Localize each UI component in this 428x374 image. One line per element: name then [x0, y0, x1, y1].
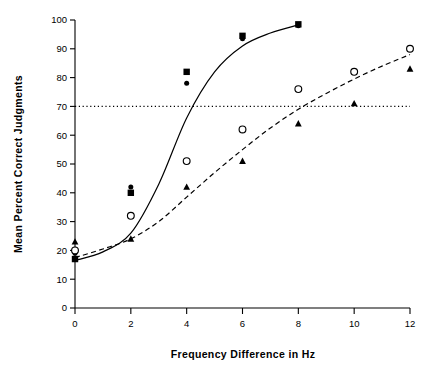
data-point-filled-triangle	[407, 65, 414, 71]
y-tick-label: 50	[56, 158, 67, 169]
data-markers-group	[72, 21, 414, 262]
data-point-filled-square	[295, 21, 301, 27]
data-point-filled-triangle	[72, 238, 79, 244]
y-tick-label: 100	[51, 14, 67, 25]
x-tick-label: 2	[128, 318, 133, 329]
normal-fit-curve	[75, 25, 298, 261]
data-point-filled-triangle	[239, 158, 246, 164]
y-tick-label: 80	[56, 72, 67, 83]
data-point-filled-triangle	[295, 120, 302, 126]
y-tick-label: 20	[56, 245, 67, 256]
chart-canvas: 0102030405060708090100 024681012 Mean Pe…	[0, 0, 428, 374]
y-tick-label: 40	[56, 187, 67, 198]
data-point-filled-square	[183, 69, 189, 75]
y-axis-title: Mean Percent Correct Judgments	[12, 75, 24, 253]
y-tick-label: 0	[62, 302, 67, 313]
data-point-open-circle	[72, 247, 79, 254]
data-point-filled-square	[128, 190, 134, 196]
y-tick-label: 90	[56, 43, 67, 54]
x-tick-label: 8	[296, 318, 301, 329]
data-point-open-circle	[183, 158, 190, 165]
data-point-filled-circle	[184, 81, 189, 86]
x-tick-label: 12	[405, 318, 416, 329]
data-point-open-circle	[295, 86, 302, 93]
y-tick-label: 60	[56, 130, 67, 141]
data-point-open-circle	[239, 126, 246, 133]
data-point-filled-circle	[128, 185, 133, 190]
y-axis-ticks: 0102030405060708090100	[51, 14, 75, 313]
x-axis-ticks: 024681012	[72, 308, 415, 329]
data-point-filled-triangle	[351, 100, 358, 106]
y-tick-label: 10	[56, 274, 67, 285]
plot-axes	[75, 20, 410, 308]
fit-curves-group	[75, 25, 410, 261]
data-point-open-circle	[407, 45, 414, 52]
data-point-open-circle	[127, 212, 134, 219]
x-tick-label: 6	[240, 318, 245, 329]
data-point-filled-square	[72, 256, 78, 262]
data-point-open-circle	[351, 68, 358, 75]
chart-figure: 0102030405060708090100 024681012 Mean Pe…	[0, 0, 428, 374]
mr-fit-curve	[75, 55, 410, 258]
data-point-filled-triangle	[183, 183, 190, 189]
data-point-filled-square	[239, 33, 245, 39]
x-tick-label: 4	[184, 318, 189, 329]
y-tick-label: 70	[56, 101, 67, 112]
y-tick-label: 30	[56, 216, 67, 227]
x-axis-title: Frequency Difference in Hz	[171, 348, 315, 360]
x-tick-label: 10	[349, 318, 360, 329]
x-tick-label: 0	[72, 318, 77, 329]
